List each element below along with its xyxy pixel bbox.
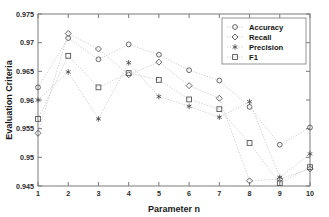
- chart-legend: AccuracyRecallPrecisionF1: [222, 18, 306, 64]
- data-point-precision-8: [247, 99, 252, 105]
- data-point-precision-10: [308, 151, 313, 157]
- data-point-f1-7: [217, 107, 222, 112]
- data-point-precision-6: [187, 104, 192, 110]
- x-tick-label: 1: [36, 189, 40, 198]
- x-tick-label: 10: [306, 189, 314, 198]
- data-point-accuracy-3: [96, 57, 101, 62]
- data-point-f1-2: [66, 53, 71, 58]
- series-line-f1: [38, 56, 310, 183]
- y-tick-label: 0.96: [20, 96, 34, 105]
- x-tick-label: 9: [278, 189, 282, 198]
- legend-label-recall: Recall: [249, 33, 271, 42]
- y-tick-label: 0.97: [20, 38, 34, 47]
- x-tick-label: 6: [187, 189, 191, 198]
- data-point-recall-6: [186, 83, 192, 89]
- data-point-accuracy-7: [217, 78, 222, 83]
- x-axis-title: Parameter n: [148, 204, 200, 214]
- data-point-accuracy-4: [126, 42, 131, 47]
- legend-label-precision: Precision: [249, 43, 284, 52]
- chart-figure: 0.9450.950.9550.960.9650.970.97512345678…: [0, 0, 329, 217]
- y-tick-label: 0.945: [16, 182, 34, 191]
- y-tick-label: 0.965: [16, 67, 34, 76]
- series-line-precision: [38, 63, 310, 178]
- y-tick-label: 0.95: [20, 153, 34, 162]
- x-tick-label: 3: [96, 189, 100, 198]
- data-point-precision-2: [66, 69, 71, 75]
- x-tick-label: 7: [217, 189, 221, 198]
- x-tick-label: 4: [127, 189, 131, 198]
- series-precision: [36, 60, 313, 180]
- series-f1: [36, 53, 313, 185]
- legend-label-accuracy: Accuracy: [249, 23, 284, 32]
- x-tick-label: 8: [248, 189, 252, 198]
- x-tick-label: 5: [157, 189, 161, 198]
- data-point-precision-3: [96, 116, 101, 122]
- y-axis-title: Evaluation Criteria: [4, 59, 14, 140]
- data-point-recall-7: [216, 95, 222, 101]
- y-tick-label: 0.955: [16, 124, 34, 133]
- data-point-precision-7: [217, 114, 222, 120]
- y-tick-label: 0.975: [16, 10, 34, 19]
- data-point-precision-5: [156, 94, 161, 100]
- legend-label-f1: F1: [249, 53, 259, 62]
- x-tick-label: 2: [66, 189, 70, 198]
- evaluation-criteria-line-chart: 0.9450.950.9550.960.9650.970.97512345678…: [0, 0, 329, 217]
- data-point-f1-3: [96, 85, 101, 90]
